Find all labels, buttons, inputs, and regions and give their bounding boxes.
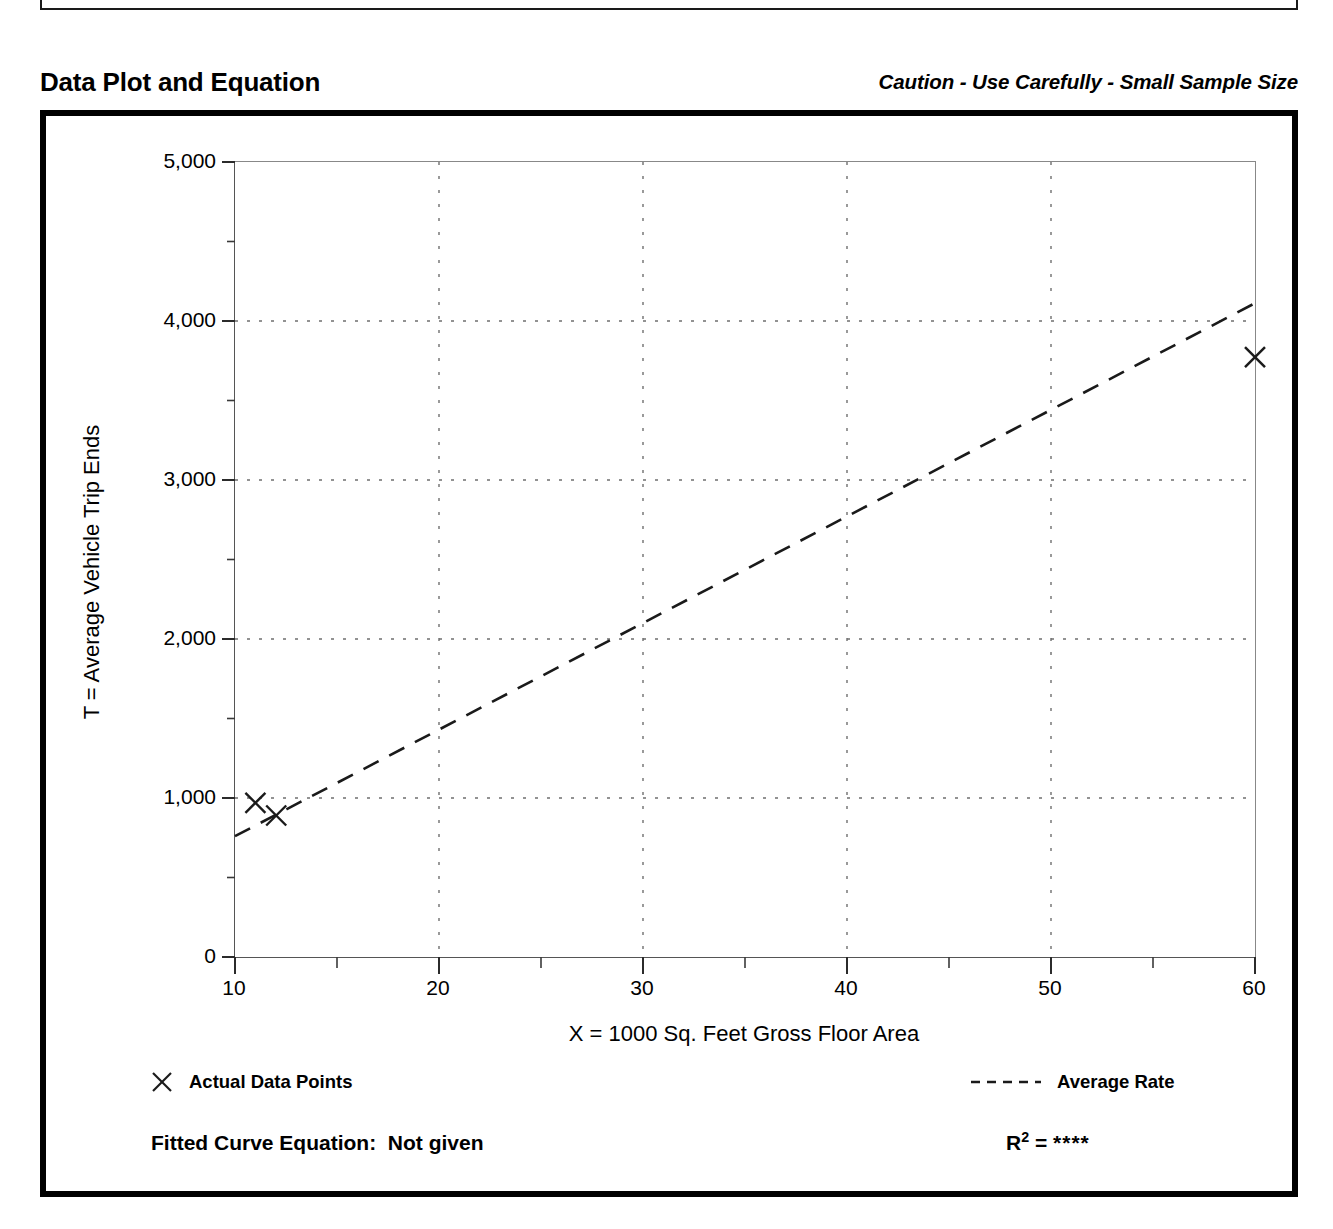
page-title: Data Plot and Equation: [40, 67, 320, 98]
caution-note: Caution - Use Carefully - Small Sample S…: [879, 70, 1298, 94]
dashed-line-icon: [971, 1080, 1041, 1084]
y-tick-1000: 1,000: [163, 785, 216, 809]
legend-label-average-rate: Average Rate: [1057, 1071, 1175, 1093]
y-tick-4000: 4,000: [163, 308, 216, 332]
vertical-gridlines: [439, 162, 1051, 957]
x-tick-60: 60: [1242, 976, 1265, 1000]
x-axis-tick-labels: 10 20 30 40 50 60: [234, 976, 1254, 1006]
plot-canvas: [235, 162, 1255, 957]
chart-panel: 0 1,000 2,000 3,000 4,000 5,000: [40, 110, 1298, 1197]
legend-item-actual-data-points: Actual Data Points: [151, 1071, 352, 1093]
x-tick-20: 20: [426, 976, 449, 1000]
page-frame-sliver: [40, 0, 1298, 10]
r2-exponent: 2: [1021, 1129, 1029, 1145]
equation-value: Not given: [388, 1131, 484, 1154]
y-axis-title: T = Average Vehicle Trip Ends: [79, 292, 105, 852]
r2-stars: ****: [1053, 1131, 1090, 1154]
x-tick-40: 40: [834, 976, 857, 1000]
y-tick-0: 0: [204, 944, 216, 968]
data-point-marker: [266, 806, 286, 826]
y-axis-tick-labels: 0 1,000 2,000 3,000 4,000 5,000: [104, 161, 216, 956]
plot-area: [234, 161, 1256, 958]
x-tick-10: 10: [222, 976, 245, 1000]
fitted-curve-equation: Fitted Curve Equation: Not given: [151, 1131, 484, 1155]
x-tick-50: 50: [1038, 976, 1061, 1000]
horizontal-gridlines: [235, 321, 1255, 798]
y-tick-5000: 5,000: [163, 149, 216, 173]
x-mark-icon: [151, 1071, 173, 1093]
x-axis-title: X = 1000 Sq. Feet Gross Floor Area: [234, 1021, 1254, 1047]
y-tick-2000: 2,000: [163, 626, 216, 650]
average-rate-line: [235, 303, 1255, 836]
equation-label: Fitted Curve Equation:: [151, 1131, 376, 1154]
x-tick-30: 30: [630, 976, 653, 1000]
r2-equals: =: [1029, 1131, 1053, 1154]
header: Data Plot and Equation Caution - Use Car…: [40, 62, 1298, 102]
legend-label-actual-data-points: Actual Data Points: [189, 1071, 352, 1093]
r-squared-value: R2 = ****: [1006, 1129, 1090, 1155]
data-point-markers: [245, 347, 1265, 825]
data-point-marker: [245, 793, 265, 813]
y-tick-3000: 3,000: [163, 467, 216, 491]
data-point-marker: [1245, 347, 1265, 367]
r2-label: R: [1006, 1131, 1021, 1154]
x-axis-minor-ticks: [337, 957, 1153, 968]
y-axis-minor-ticks: [227, 242, 235, 878]
legend-item-average-rate: Average Rate: [971, 1071, 1175, 1093]
